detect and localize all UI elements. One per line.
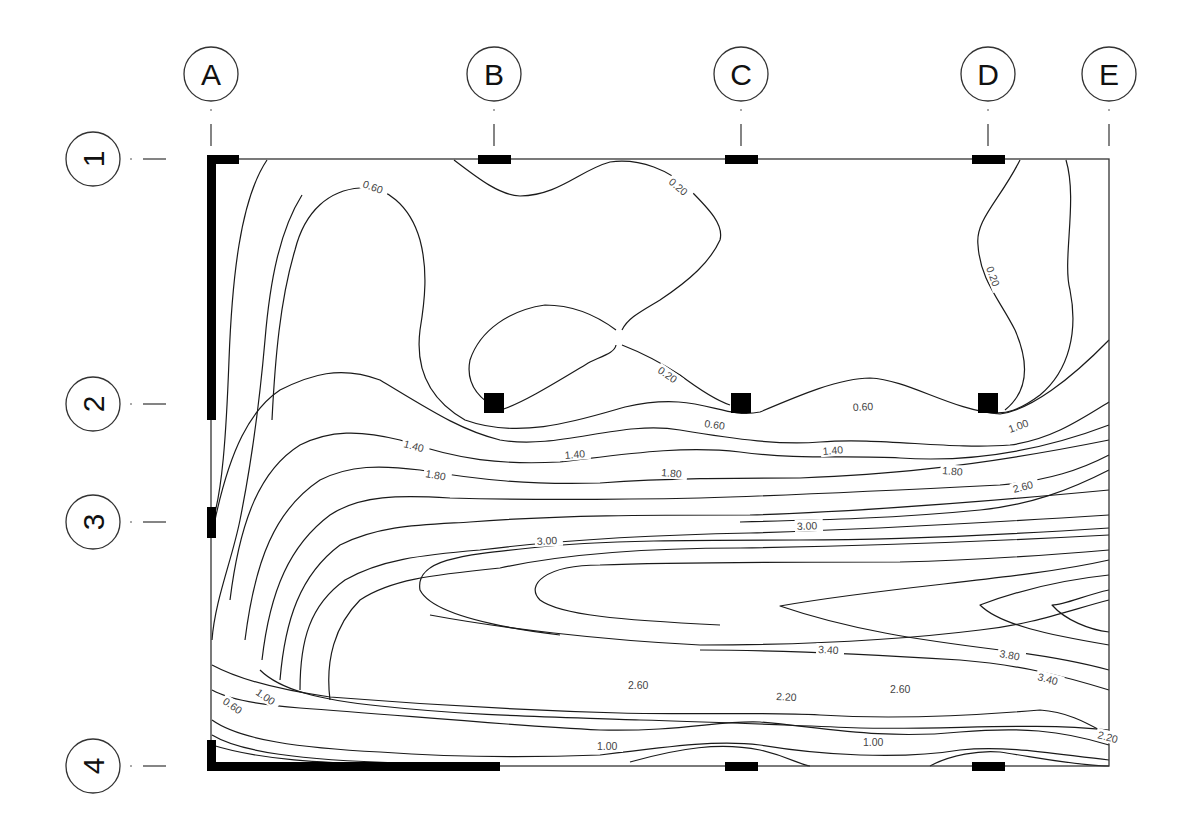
contour-line [630, 746, 810, 766]
contour-label: 1.40 [822, 443, 844, 457]
grid-label: 1 [77, 151, 110, 168]
contour-line [420, 528, 1109, 635]
contour-labels: 0.600.200.200.200.600.601.001.401.401.40… [219, 174, 1124, 752]
contour-label: 0.60 [704, 417, 726, 432]
wall [207, 740, 216, 771]
grid-label: A [201, 58, 221, 91]
grid-label: D [977, 58, 999, 91]
contour-label: 2.60 [628, 679, 649, 691]
grid-bubble-1: 1 [66, 132, 166, 186]
grid-label: 2 [77, 396, 110, 413]
column-grid-bubbles: ABCDE [184, 47, 1136, 146]
contour-line [212, 665, 1109, 735]
contour-label: 0.60 [361, 178, 384, 196]
grid-bubble-4: 4 [66, 739, 166, 793]
column [972, 155, 1005, 164]
grid-bubble-a: A [184, 47, 238, 146]
contour-label: 1.00 [1007, 417, 1030, 435]
column [478, 155, 511, 164]
contour-line [980, 575, 1109, 645]
contour-label: 3.40 [818, 643, 839, 656]
contour-line [280, 490, 1109, 680]
contour-line [930, 752, 1109, 766]
contour-label: 2.60 [1011, 478, 1034, 495]
contour-line [230, 425, 1109, 600]
contour-label: 1.80 [661, 466, 683, 480]
grid-bubble-c: C [714, 47, 768, 146]
grid-bubble-e: E [1082, 47, 1136, 146]
column [207, 507, 216, 538]
contour-label: 1.00 [863, 736, 884, 748]
contour-line [1052, 590, 1109, 632]
contour-line [213, 160, 267, 520]
wall [207, 155, 216, 420]
shear-walls [207, 155, 500, 771]
column [972, 762, 1005, 771]
column [731, 393, 751, 413]
contour-label: 3.00 [536, 534, 557, 547]
contour-label: 1.00 [597, 740, 618, 752]
contour-label: 1.80 [425, 467, 447, 482]
columns [207, 155, 1005, 771]
wall [207, 155, 239, 164]
grid-label: B [484, 58, 504, 91]
grid-bubble-d: D [961, 47, 1015, 146]
grid-bubble-3: 3 [66, 495, 166, 549]
grid-bubble-b: B [467, 47, 521, 146]
contour-label: 1.40 [564, 447, 586, 461]
column [484, 393, 504, 413]
grid-label: E [1099, 58, 1119, 91]
contour-lines [212, 160, 1109, 766]
grid-label: C [730, 58, 752, 91]
contour-line [215, 373, 1109, 520]
column [725, 155, 758, 164]
contour-label: 2.60 [890, 683, 911, 695]
column [978, 393, 998, 413]
contour-line [360, 188, 1109, 429]
contour-line [260, 670, 1109, 730]
contour-line [430, 600, 1109, 645]
grid-label: 4 [77, 758, 110, 775]
wall [207, 762, 500, 771]
grid-bubble-2: 2 [66, 377, 166, 431]
grid-label: 3 [77, 514, 110, 531]
contour-diagram: ABCDE 1234 0.600.200.200.200.600.601.001… [0, 0, 1192, 828]
contour-label: 0.20 [984, 265, 1002, 288]
contour-line [212, 195, 302, 640]
contour-label: 3.80 [999, 647, 1021, 662]
column [725, 762, 758, 771]
contour-label: 1.40 [402, 437, 425, 454]
contour-label: 1.80 [942, 464, 964, 478]
row-grid-bubbles: 1234 [66, 132, 166, 793]
contour-line [272, 188, 360, 420]
contour-label: 3.40 [1036, 670, 1059, 687]
contour-label: 3.00 [797, 519, 818, 532]
contour-label: 0.60 [852, 400, 873, 413]
contour-line [535, 550, 1109, 625]
contour-label: 2.20 [776, 690, 797, 703]
